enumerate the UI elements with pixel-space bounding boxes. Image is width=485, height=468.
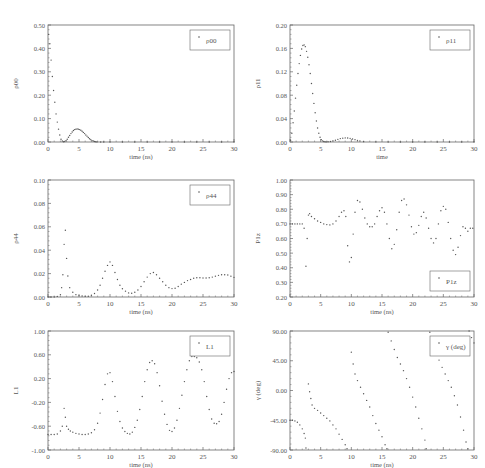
y-tick-label: -0.20 [31,399,45,406]
data-point [189,360,190,361]
data-point [415,406,416,407]
data-point [165,285,166,286]
data-point [69,287,70,288]
data-point [421,428,422,429]
data-point [386,448,387,449]
data-point [311,404,312,405]
data-point [351,257,352,258]
data-point [134,141,135,142]
data-point [122,427,123,428]
data-point [94,429,95,430]
x-tick-label: 0 [46,145,50,153]
data-point [400,141,401,142]
data-point [448,222,449,223]
data-point [396,229,397,230]
data-point [79,129,80,130]
data-point [119,285,120,286]
legend-marker [198,191,200,193]
data-point [387,332,388,333]
data-point [327,141,328,142]
data-point [226,389,227,390]
data-point [81,295,82,296]
data-point [369,406,370,407]
x-tick-label: 5 [77,145,81,153]
data-point [75,294,76,295]
data-point [473,141,474,142]
data-point [321,139,322,140]
data-point [57,296,58,297]
x-tick-label: 20 [169,145,177,153]
data-point [143,281,144,282]
data-point [424,439,425,440]
x-tick-label: 10 [107,453,115,461]
data-point [144,381,145,382]
data-point [308,383,309,384]
x-tick-label: 25 [200,145,208,153]
data-point [387,141,388,142]
data-point [233,277,234,278]
data-point [292,420,293,421]
y-axis-label: ρ44 [12,233,20,244]
y-tick-label: 0.04 [34,247,46,254]
y-tick-label: 90.00 [272,328,287,335]
y-tick-label: 0.90 [276,191,287,198]
data-point [95,141,96,142]
legend-label: P1z [446,278,457,286]
data-point [445,209,446,210]
data-point [397,357,398,358]
data-point [357,200,358,201]
y-tick-label: 0.10 [34,115,45,122]
data-point [441,367,442,368]
data-point [309,213,310,214]
data-point [425,448,426,449]
data-series [289,198,473,267]
y-tick-label: 0.00 [276,387,287,394]
y-tick-label: 0.04 [276,115,288,122]
data-series [47,356,234,435]
x-tick-label: 20 [169,453,177,461]
data-point [301,48,302,49]
data-point [330,141,331,142]
data-point [54,296,55,297]
data-point [314,112,315,113]
data-point [90,139,91,140]
data-point [50,434,51,435]
data-point [91,432,92,433]
data-point [88,295,89,296]
data-point [190,279,191,280]
data-point [384,211,385,212]
data-point [303,228,304,229]
data-point [91,140,92,141]
x-tick-label: 5 [77,453,81,461]
data-point [201,369,202,370]
y-tick-label: 0.16 [276,45,288,52]
data-point [300,55,301,56]
data-point [467,230,468,231]
data-point [363,393,364,394]
data-point [457,404,458,405]
data-point [341,211,342,212]
data-point [109,372,110,373]
data-point [294,420,295,421]
data-point [457,247,458,248]
data-point [369,226,370,227]
data-point [376,216,377,217]
data-point [63,408,64,409]
data-point [54,434,55,435]
x-tick-label: 10 [348,453,356,461]
data-point [94,141,95,142]
data-point [151,360,152,361]
data-point [50,296,51,297]
y-tick-label: 0.60 [34,351,45,358]
data-point [340,138,341,139]
y-tick-label: 0.20 [276,294,287,301]
data-point [72,292,73,293]
data-point [117,411,118,412]
data-point [54,102,55,103]
data-point [311,216,312,217]
data-point [74,129,75,130]
data-point [291,133,292,134]
data-point [112,265,113,266]
data-point [303,44,304,45]
data-point [463,429,464,430]
